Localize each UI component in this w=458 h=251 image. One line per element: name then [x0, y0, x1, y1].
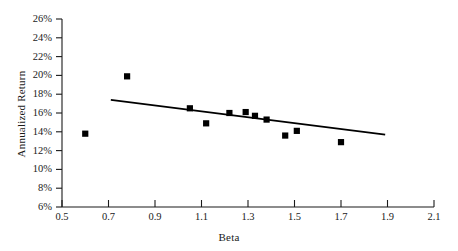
trend-line-segment	[111, 100, 385, 135]
scatter-chart: Annualized Return Beta 6%8%10%12%14%16%1…	[0, 0, 458, 251]
plot-area	[0, 0, 458, 251]
data-point-marker	[252, 113, 258, 119]
data-point-marker	[187, 105, 193, 111]
data-point-marker	[203, 120, 209, 126]
data-point-marker	[226, 110, 232, 116]
data-point-marker	[338, 139, 344, 145]
data-point-marker	[243, 109, 249, 115]
data-point-marker	[82, 131, 88, 137]
data-point-series	[82, 73, 344, 145]
x-axis-ticks	[62, 200, 434, 207]
trend-line	[111, 100, 385, 135]
data-point-marker	[264, 116, 270, 122]
data-point-marker	[282, 132, 288, 138]
y-axis-ticks	[56, 19, 62, 207]
data-point-marker	[294, 128, 300, 134]
data-point-marker	[124, 73, 130, 79]
